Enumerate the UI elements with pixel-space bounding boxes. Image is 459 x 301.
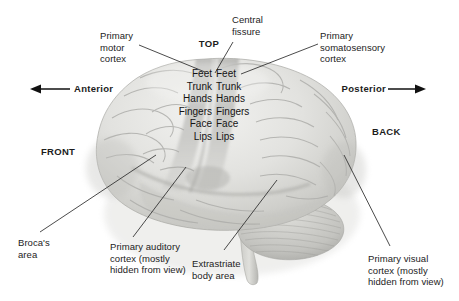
occipital-shading [322, 142, 366, 198]
callout-brocas-area: Broca's area [18, 237, 76, 260]
homunculus-motor-labels: Feet Trunk Hands Fingers Face Lips [158, 68, 212, 144]
orientation-label-front: FRONT [41, 146, 95, 158]
callout-central-fissure: Central fissure [232, 14, 288, 37]
orientation-label-anterior: Anterior [74, 83, 134, 95]
callout-extrastriate-body-area: Extrastriate body area [192, 258, 268, 281]
orientation-label-back: BACK [372, 126, 420, 138]
orientation-label-top: TOP [191, 38, 227, 50]
callout-primary-somatosensory-cortex: Primary somatosensory cortex [320, 30, 426, 65]
callout-primary-motor-cortex: Primary motor cortex [100, 30, 144, 65]
figure-canvas: Primary motor cortex Central fissure Pri… [0, 0, 459, 301]
homunculus-somatosensory-labels: Feet Trunk Hands Fingers Face Lips [216, 68, 272, 144]
callout-primary-auditory-cortex: Primary auditory cortex (mostly hidden f… [110, 241, 200, 276]
primary-auditory-cortex-region [186, 166, 230, 190]
orientation-label-posterior: Posterior [330, 83, 386, 95]
callout-primary-visual-cortex: Primary visual cortex (mostly hidden fro… [368, 253, 456, 288]
